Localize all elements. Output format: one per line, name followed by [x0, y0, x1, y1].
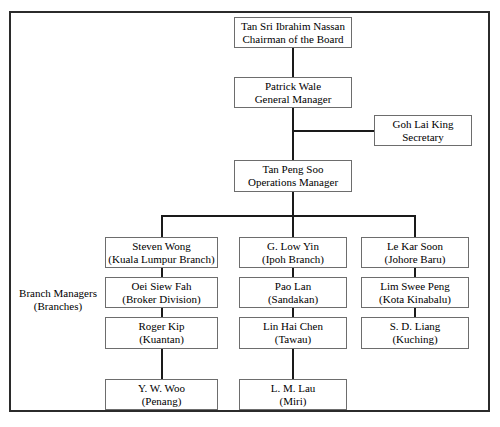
- org-chart: Tan Sri Ibrahim Nassan Chairman of the B…: [0, 0, 500, 427]
- connector-b3r1-to-b3r2: [414, 268, 416, 277]
- node-branch2-row3[interactable]: Lin Hai Chen (Tawau): [239, 317, 347, 349]
- node-chairman[interactable]: Tan Sri Ibrahim Nassan Chairman of the B…: [234, 17, 352, 48]
- connector-bus-drop-branch-1: [161, 215, 163, 237]
- connector-branch-bus: [161, 215, 416, 217]
- connector-chairman-to-gm: [292, 48, 294, 77]
- node-branch3-row2[interactable]: Lim Swee Peng (Kota Kinabalu): [361, 277, 469, 308]
- node-branch3-row3-name: S. D. Liang: [390, 320, 441, 333]
- node-branch2-row4-name: L. M. Lau: [271, 382, 316, 395]
- node-branch2-row1[interactable]: G. Low Yin (Ipoh Branch): [239, 237, 347, 268]
- node-branch1-row2[interactable]: Oei Siew Fah (Broker Division): [105, 277, 218, 308]
- node-branch3-row1-name: Le Kar Soon: [387, 240, 443, 253]
- node-chairman-role: Chairman of the Board: [242, 33, 343, 46]
- branch-managers-label: Branch Managers (Branches): [16, 287, 100, 314]
- node-branch2-row1-role: (Ipoh Branch): [262, 253, 324, 266]
- node-branch2-row4-role: (Miri): [280, 395, 307, 408]
- connector-b2r3-to-b2r4: [292, 349, 294, 379]
- chart-frame: [9, 11, 490, 412]
- connector-b3r2-to-b3r3: [414, 308, 416, 317]
- node-branch2-row2-role: (Sandakan): [268, 293, 318, 306]
- node-branch3-row2-role: (Kota Kinabalu): [379, 293, 451, 306]
- node-operations-manager-name: Tan Peng Soo: [263, 163, 324, 176]
- connector-b1r2-to-b1r3: [161, 308, 163, 317]
- node-branch1-row1-role: (Kuala Lumpur Branch): [108, 253, 214, 266]
- connector-gm-to-secretary: [292, 130, 374, 132]
- node-general-manager-name: Patrick Wale: [265, 80, 321, 93]
- node-branch1-row3-name: Roger Kip: [138, 320, 184, 333]
- node-branch2-row3-role: (Tawau): [275, 333, 312, 346]
- node-general-manager-role: General Manager: [255, 93, 332, 106]
- node-branch1-row3-role: (Kuantan): [139, 333, 184, 346]
- node-branch2-row4[interactable]: L. M. Lau (Miri): [239, 379, 347, 410]
- connector-gm-to-ops: [292, 108, 294, 160]
- connector-b1r1-to-b1r2: [161, 268, 163, 277]
- node-branch1-row2-name: Oei Siew Fah: [132, 280, 192, 293]
- node-branch1-row2-role: (Broker Division): [122, 293, 201, 306]
- node-branch3-row3-role: (Kuching): [392, 333, 437, 346]
- node-branch1-row4-name: Y. W. Woo: [138, 382, 185, 395]
- node-branch1-row1[interactable]: Steven Wong (Kuala Lumpur Branch): [105, 237, 218, 268]
- node-operations-manager-role: Operations Manager: [248, 176, 338, 189]
- node-branch3-row3[interactable]: S. D. Liang (Kuching): [361, 317, 469, 349]
- node-chairman-name: Tan Sri Ibrahim Nassan: [241, 20, 345, 33]
- node-operations-manager[interactable]: Tan Peng Soo Operations Manager: [234, 160, 352, 192]
- node-secretary-name: Goh Lai King: [392, 118, 453, 131]
- node-branch1-row1-name: Steven Wong: [132, 240, 191, 253]
- node-secretary-role: Secretary: [402, 131, 444, 144]
- connector-b2r1-to-b2r2: [292, 268, 294, 277]
- node-branch1-row4-role: (Penang): [142, 395, 182, 408]
- node-general-manager[interactable]: Patrick Wale General Manager: [234, 77, 352, 108]
- node-branch1-row3[interactable]: Roger Kip (Kuantan): [105, 317, 218, 349]
- connector-b2r2-to-b2r3: [292, 308, 294, 317]
- connector-b1r3-to-b1r4: [161, 349, 163, 379]
- node-branch3-row1[interactable]: Le Kar Soon (Johore Baru): [361, 237, 469, 268]
- node-branch3-row2-name: Lim Swee Peng: [380, 280, 450, 293]
- node-secretary[interactable]: Goh Lai King Secretary: [374, 115, 472, 146]
- branch-managers-label-line2: (Branches): [16, 300, 100, 313]
- node-branch1-row4[interactable]: Y. W. Woo (Penang): [105, 379, 218, 410]
- node-branch2-row1-name: G. Low Yin: [267, 240, 319, 253]
- node-branch2-row2[interactable]: Pao Lan (Sandakan): [239, 277, 347, 308]
- node-branch2-row2-name: Pao Lan: [275, 280, 311, 293]
- node-branch2-row3-name: Lin Hai Chen: [263, 320, 323, 333]
- node-branch3-row1-role: (Johore Baru): [385, 253, 446, 266]
- branch-managers-label-line1: Branch Managers: [16, 287, 100, 300]
- connector-bus-drop-branch-3: [414, 215, 416, 237]
